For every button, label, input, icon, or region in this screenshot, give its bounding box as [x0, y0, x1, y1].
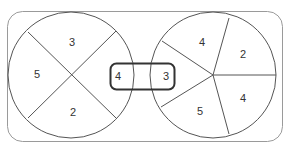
- diagram-canvas: 3 5 2 4 2 4 5 4 3: [0, 0, 289, 146]
- right-sector-top-label: 4: [199, 36, 205, 48]
- center-box-right-label: 3: [163, 70, 169, 82]
- right-sector-lower-right-label: 4: [240, 92, 246, 104]
- right-spoke-bottom-right: [213, 75, 229, 134]
- right-sector-bottom-label: 5: [197, 105, 203, 117]
- left-sector-top-label: 3: [69, 36, 75, 48]
- left-sector-bottom-label: 2: [70, 106, 76, 118]
- right-spoke-top-right: [213, 18, 229, 75]
- left-sector-left-label: 5: [34, 68, 40, 80]
- right-spoke-top-left: [162, 41, 213, 75]
- right-sector-upper-right-label: 2: [240, 48, 246, 60]
- center-box-left-label: 4: [115, 70, 121, 82]
- center-overlap-box: 4 3: [111, 64, 175, 90]
- outer-frame: [8, 12, 283, 142]
